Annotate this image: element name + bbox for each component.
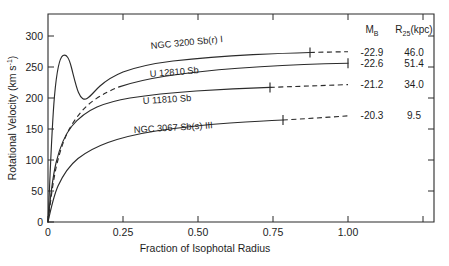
series-ngc3200-dashed	[310, 52, 348, 53]
curve-label-u12810: U 12810 Sb	[149, 65, 199, 79]
value-mb-u11810: -21.2	[361, 79, 384, 90]
y-tick-label-50: 50	[31, 185, 43, 197]
value-r25-u11810: 34.0	[404, 79, 424, 90]
curve-labels: NGC 3200 Sb(r) I U 12810 Sb U 11810 Sb N…	[134, 34, 224, 135]
y-tick-label-100: 100	[25, 154, 43, 166]
y-axis-title-tail: )	[6, 56, 18, 60]
x-axis-title: Fraction of Isophotal Radius	[140, 242, 271, 254]
value-mb-ngc3067: -20.3	[361, 110, 384, 121]
y-tick-label-0: 0	[37, 216, 43, 228]
value-r25-ngc3067: 9.5	[407, 110, 421, 121]
series-u11810	[48, 82, 348, 222]
column-header-mb: MB	[365, 24, 378, 37]
x-tick-label-050: 0.50	[188, 226, 209, 238]
data-columns: MB R25(kpc) -22.9 46.0 -22.6 51.4 -21.2 …	[361, 24, 433, 121]
y-axis-title: Rotational Velocity (km s-1)	[6, 56, 18, 181]
series-u12810	[48, 58, 348, 222]
y-axis-title-main: Rotational Velocity (km s	[6, 65, 18, 180]
value-r25-u12810: 51.4	[404, 58, 424, 69]
y-tick-label-200: 200	[25, 92, 43, 104]
curve-label-ngc3200: NGC 3200 Sb(r) I	[150, 34, 223, 51]
curve-label-ngc3067: NGC 3067 Sb(s) III	[134, 120, 214, 135]
series-ngc3067-solid	[48, 120, 283, 222]
value-r25-ngc3200: 46.0	[404, 47, 424, 58]
svg-text:Rotational Velocity (km s-1): Rotational Velocity (km s-1)	[6, 56, 18, 181]
series-u11810-dashed	[270, 85, 348, 88]
x-axis-tick-labels: 0 0.25 0.50 0.75 1.00	[45, 226, 358, 238]
x-tick-label-0: 0	[45, 226, 51, 238]
value-mb-ngc3200: -22.9	[361, 47, 384, 58]
series-ngc3067-dashed	[283, 116, 348, 120]
rotation-curve-figure: 0 50 100 150 200 250 300 0 0.25 0.50 0.7…	[0, 0, 449, 266]
curve-label-u11810: U 11810 Sb	[143, 93, 192, 106]
x-axis-ticks	[48, 216, 423, 222]
column-header-r25: R25(kpc)	[395, 24, 432, 37]
series-u11810-solid	[48, 87, 270, 222]
y-tick-label-300: 300	[25, 30, 43, 42]
y-axis-ticks-right	[428, 36, 434, 191]
y-axis-tick-labels: 0 50 100 150 200 250 300	[25, 30, 43, 228]
x-tick-label-025: 0.25	[113, 226, 134, 238]
series-ngc3200-solid	[48, 53, 310, 223]
y-tick-label-250: 250	[25, 61, 43, 73]
chart-canvas: 0 50 100 150 200 250 300 0 0.25 0.50 0.7…	[0, 0, 449, 266]
x-axis-ticks-top	[123, 14, 423, 20]
x-tick-label-100: 1.00	[338, 226, 359, 238]
x-tick-label-075: 0.75	[263, 226, 284, 238]
value-mb-u12810: -22.6	[361, 58, 384, 69]
y-tick-label-150: 150	[25, 123, 43, 135]
